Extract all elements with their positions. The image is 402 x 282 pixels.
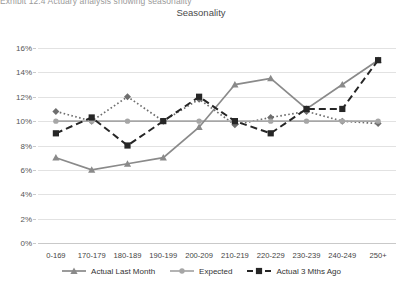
y-axis-tick [33, 243, 36, 244]
y-axis-labels: 0%2%4%6%8%10%12%14%16% [0, 48, 36, 244]
data-point-marker [375, 118, 380, 123]
data-point-marker [125, 118, 130, 123]
data-point-marker [52, 154, 59, 160]
data-point-marker [196, 118, 201, 123]
data-point-marker [232, 118, 238, 124]
y-axis-tick-label: 16% [0, 44, 32, 53]
data-point-marker [89, 114, 95, 120]
data-point-marker [304, 118, 309, 123]
data-point-marker [52, 108, 59, 115]
x-axis-tick-label: 210-219 [221, 251, 249, 260]
chart-title: Seasonality [0, 7, 402, 18]
x-axis-tick-label: 230-239 [293, 251, 321, 260]
data-point-marker [124, 142, 130, 148]
y-axis-tick-label: 12% [0, 93, 32, 102]
y-axis-tick [33, 219, 36, 220]
data-point-marker [375, 57, 381, 63]
y-axis-tick-label: 6% [0, 166, 32, 175]
data-point-marker [340, 118, 345, 123]
legend-label: Actual 3 Mths Ago [276, 267, 340, 276]
data-point-marker [256, 268, 262, 274]
seasonality-chart: Exhibit 12.4 Actuary analysis showing se… [0, 0, 402, 282]
legend-label: Actual Last Month [91, 267, 155, 276]
legend-swatch [61, 266, 87, 276]
series-expected [53, 118, 381, 123]
y-axis-tick-label: 8% [0, 142, 32, 151]
y-axis-tick-label: 0% [0, 239, 32, 248]
y-axis-tick [33, 97, 36, 98]
chart-legend: Actual Last MonthExpectedActual 3 Mths A… [0, 266, 402, 276]
y-axis-tick [33, 72, 36, 73]
legend-item-expected[interactable]: Expected [169, 266, 232, 276]
y-axis-tick [33, 170, 36, 171]
y-axis-tick [33, 48, 36, 49]
y-axis-tick [33, 121, 36, 122]
series-actual-3-mths-ago [53, 57, 381, 149]
data-point-marker [53, 118, 58, 123]
x-axis-tick-label: 220-229 [257, 251, 285, 260]
x-axis-tick-label: 250+ [370, 251, 387, 260]
y-axis-tick [33, 146, 36, 147]
legend-swatch [169, 266, 195, 276]
data-point-marker [339, 106, 345, 112]
series-expected-dotted [52, 93, 381, 128]
y-axis-tick [33, 194, 36, 195]
x-axis-labels: 0-169170-179180-189190-199200-209210-219… [38, 250, 396, 264]
legend-item-actual-last-month[interactable]: Actual Last Month [61, 266, 155, 276]
x-axis-tick-label: 240-249 [328, 251, 356, 260]
legend-swatch [246, 266, 272, 276]
data-point-marker [53, 130, 59, 136]
x-axis-tick-label: 0-169 [46, 251, 65, 260]
x-axis-tick-label: 190-199 [149, 251, 177, 260]
data-point-marker [179, 268, 184, 273]
legend-label: Expected [199, 267, 232, 276]
legend-item-actual-3-mths-ago[interactable]: Actual 3 Mths Ago [246, 266, 340, 276]
y-axis-tick-label: 14% [0, 68, 32, 77]
data-point-marker [268, 118, 273, 123]
data-point-marker [160, 118, 166, 124]
series-line [56, 60, 378, 170]
x-axis-tick-label: 200-209 [185, 251, 213, 260]
data-point-marker [303, 106, 309, 112]
x-axis-tick-label: 180-189 [114, 251, 142, 260]
cut-off-header-text: Exhibit 12.4 Actuary analysis showing se… [0, 0, 402, 6]
y-axis-tick-label: 4% [0, 190, 32, 199]
series-layer [38, 48, 396, 244]
data-point-marker [268, 130, 274, 136]
y-axis-tick-label: 2% [0, 215, 32, 224]
x-axis-tick-label: 170-179 [78, 251, 106, 260]
data-point-marker [196, 94, 202, 100]
y-axis-tick-label: 10% [0, 117, 32, 126]
series-line [56, 60, 378, 145]
